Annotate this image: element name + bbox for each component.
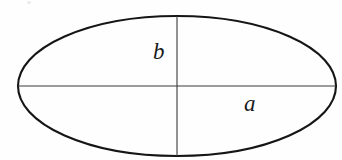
semi-minor-axis-label: b bbox=[153, 40, 165, 63]
scan-speck-artifact bbox=[27, 1, 31, 4]
semi-major-axis-label: a bbox=[244, 92, 256, 115]
ellipse-figure: b a bbox=[0, 0, 342, 160]
ellipse-diagram-canvas bbox=[0, 0, 342, 160]
